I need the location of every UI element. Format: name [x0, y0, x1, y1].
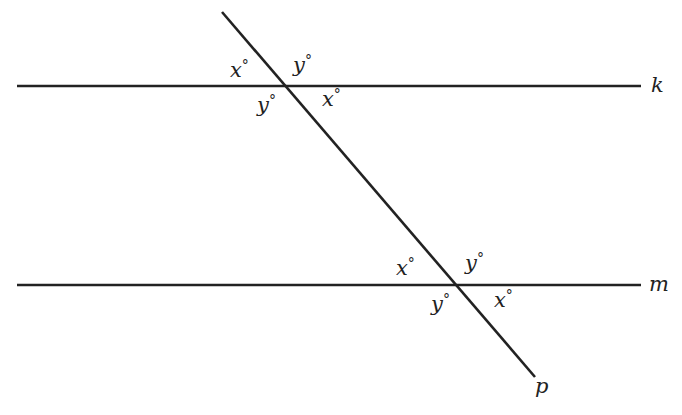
- line-label-p: p: [535, 374, 548, 398]
- angle-label-y: y°: [464, 250, 484, 275]
- angle-label-x: x°: [230, 57, 249, 82]
- degree-symbol: °: [305, 52, 312, 68]
- angle-label-y: y°: [430, 291, 450, 316]
- angle-label-x: x°: [494, 287, 513, 312]
- angle-label-y: y°: [292, 52, 312, 77]
- degree-symbol: °: [506, 287, 513, 303]
- angle-label-x: x°: [322, 86, 341, 111]
- degree-symbol: °: [334, 86, 341, 102]
- transversal-diagram: kmpx°y°y°x°x°y°y°x°: [0, 0, 682, 415]
- degree-symbol: °: [408, 255, 415, 271]
- degree-symbol: °: [242, 57, 249, 73]
- angle-label-x: x°: [396, 255, 415, 280]
- degree-symbol: °: [269, 92, 276, 108]
- degree-symbol: °: [477, 250, 484, 266]
- line-label-k: k: [651, 73, 664, 97]
- angle-label-y: y°: [256, 92, 276, 117]
- line-label-m: m: [649, 272, 669, 296]
- line-p: [222, 12, 535, 377]
- degree-symbol: °: [443, 291, 450, 307]
